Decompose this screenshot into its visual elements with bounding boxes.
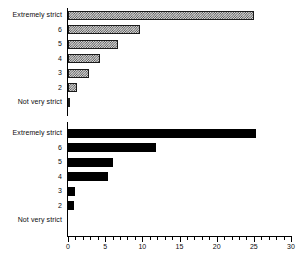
- bar-track: [68, 8, 305, 22]
- bar: [68, 40, 118, 49]
- bar-track: [68, 37, 305, 51]
- x-tick-major: [254, 237, 255, 242]
- x-tick-minor: [232, 237, 233, 240]
- bar: [68, 187, 75, 196]
- bar: [68, 143, 156, 152]
- bar-track: [68, 199, 305, 213]
- bar-row: 6: [0, 23, 305, 37]
- x-tick-major: [291, 237, 292, 242]
- x-tick-minor: [90, 237, 91, 240]
- chart-panel-top: Extremely strict65432Not very strict: [0, 4, 305, 118]
- category-label: 2: [0, 199, 62, 213]
- bar: [68, 25, 140, 34]
- chart-panel-bottom: Extremely strict65432Not very strict 051…: [0, 122, 305, 240]
- x-tick-major: [105, 237, 106, 242]
- bar: [68, 11, 254, 20]
- category-label: 5: [0, 37, 62, 51]
- category-label: 2: [0, 81, 62, 95]
- bar-track: [68, 170, 305, 184]
- bar-row: 4: [0, 52, 305, 66]
- bar-row: 6: [0, 141, 305, 155]
- x-tick-minor: [135, 237, 136, 240]
- bar-track: [68, 141, 305, 155]
- bar-track: [68, 81, 305, 95]
- bar-row: Extremely strict: [0, 8, 305, 22]
- bar-track: [68, 52, 305, 66]
- category-label: 3: [0, 184, 62, 198]
- category-label: Not very strict: [0, 213, 62, 227]
- chart-figure: Extremely strict65432Not very strict Ext…: [0, 0, 305, 264]
- x-tick-minor: [98, 237, 99, 240]
- bar-row: Not very strict: [0, 95, 305, 109]
- x-tick-minor: [120, 237, 121, 240]
- bar-track: [68, 184, 305, 198]
- bar-row: Not very strict: [0, 213, 305, 227]
- x-tick-label: 15: [170, 243, 190, 250]
- bar-row: 3: [0, 66, 305, 80]
- x-tick-minor: [150, 237, 151, 240]
- bar: [68, 54, 100, 63]
- bar-track: [68, 213, 305, 227]
- bar-row: 5: [0, 37, 305, 51]
- x-tick-minor: [284, 237, 285, 240]
- x-tick-minor: [224, 237, 225, 240]
- bar: [68, 83, 77, 92]
- x-tick-label: 0: [58, 243, 78, 250]
- bar: [68, 129, 256, 138]
- x-tick-minor: [75, 237, 76, 240]
- bar: [68, 98, 70, 107]
- bar: [68, 172, 108, 181]
- bar-track: [68, 66, 305, 80]
- x-tick-minor: [113, 237, 114, 240]
- x-tick-major: [217, 237, 218, 242]
- category-label: 6: [0, 141, 62, 155]
- x-tick-minor: [276, 237, 277, 240]
- x-tick-minor: [165, 237, 166, 240]
- x-tick-label: 10: [132, 243, 152, 250]
- x-tick-minor: [269, 237, 270, 240]
- category-label: Not very strict: [0, 95, 62, 109]
- bar: [68, 201, 74, 210]
- bar-row: 3: [0, 184, 305, 198]
- x-tick-minor: [239, 237, 240, 240]
- x-tick-label: 20: [207, 243, 227, 250]
- bar-track: [68, 23, 305, 37]
- category-label: 6: [0, 23, 62, 37]
- category-label: 5: [0, 155, 62, 169]
- category-label: 4: [0, 52, 62, 66]
- bar-track: [68, 155, 305, 169]
- x-tick-minor: [187, 237, 188, 240]
- x-tick-minor: [194, 237, 195, 240]
- x-tick-label: 5: [95, 243, 115, 250]
- x-tick-minor: [172, 237, 173, 240]
- x-tick-minor: [127, 237, 128, 240]
- x-tick-minor: [209, 237, 210, 240]
- x-tick-minor: [261, 237, 262, 240]
- x-tick-label: 30: [281, 243, 301, 250]
- bar-row: 4: [0, 170, 305, 184]
- x-tick-minor: [246, 237, 247, 240]
- x-tick-minor: [157, 237, 158, 240]
- bar: [68, 158, 113, 167]
- x-tick-minor: [202, 237, 203, 240]
- x-tick-major: [142, 237, 143, 242]
- x-tick-major: [180, 237, 181, 242]
- bar-row: 2: [0, 81, 305, 95]
- bar-row: Extremely strict: [0, 126, 305, 140]
- bar-row: 5: [0, 155, 305, 169]
- bar-track: [68, 95, 305, 109]
- x-tick-major: [68, 237, 69, 242]
- category-label: 3: [0, 66, 62, 80]
- category-label: Extremely strict: [0, 126, 62, 140]
- category-label: 4: [0, 170, 62, 184]
- bar-track: [68, 126, 305, 140]
- x-tick-minor: [83, 237, 84, 240]
- bar: [68, 69, 89, 78]
- x-tick-label: 25: [244, 243, 264, 250]
- bar-row: 2: [0, 199, 305, 213]
- category-label: Extremely strict: [0, 8, 62, 22]
